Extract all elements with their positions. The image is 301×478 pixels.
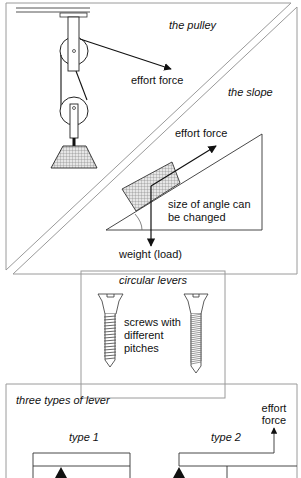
- angle-note-line1: size of angle can: [168, 198, 251, 210]
- type2-effort-line1: effort: [262, 402, 287, 414]
- ceiling-bracket: [60, 13, 87, 17]
- weight-label: weight (load): [118, 248, 182, 260]
- pulley-effort-label: effort force: [131, 74, 183, 86]
- screws-note-line3: pitches: [124, 342, 159, 354]
- screws-panel: circular levers: [81, 271, 225, 398]
- type2-label: type 2: [211, 431, 241, 443]
- screw-fine: [184, 294, 208, 373]
- levers-title: three types of lever: [16, 394, 111, 406]
- pulley-title: the pulley: [169, 19, 218, 31]
- screws-note-line2: different: [124, 329, 164, 341]
- slope-title: the slope: [228, 86, 273, 98]
- screw-coarse: [98, 294, 123, 367]
- type2-effort-line2: force: [262, 414, 286, 426]
- fulcrum-icon: [55, 467, 67, 478]
- angle-note-line2: be changed: [168, 211, 226, 223]
- simple-machines-diagram: the pulley effort force the slope effort…: [0, 0, 301, 478]
- type1-lever: [33, 453, 130, 478]
- rope: [76, 71, 87, 100]
- weight-block: [51, 146, 97, 168]
- effort-arrow: [80, 39, 171, 69]
- screws-note-line1: screws with: [124, 316, 181, 328]
- fulcrum-icon: [173, 467, 185, 478]
- slope-effort-label: effort force: [175, 127, 227, 139]
- type1-label: type 1: [69, 431, 99, 443]
- fixed-pulley-bracket: [68, 17, 79, 71]
- screws-title: circular levers: [119, 274, 187, 286]
- slope-panel: the slope effort force size of angle can…: [13, 7, 297, 274]
- movable-pulley-bracket: [70, 104, 78, 138]
- hook: [73, 138, 76, 146]
